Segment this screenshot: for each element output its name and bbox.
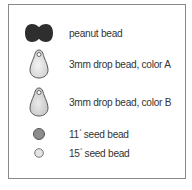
size-rest: seed bead bbox=[82, 147, 129, 159]
legend-label: 3mm drop bead, color B bbox=[69, 96, 171, 108]
legend-item-11-seed-bead: 11° seed bead bbox=[9, 127, 137, 141]
legend-label: 11° seed bead bbox=[69, 128, 129, 140]
legend-item-peanut-bead: peanut bead bbox=[9, 23, 130, 43]
legend-label: peanut bead bbox=[69, 27, 122, 39]
legend-item-15-seed-bead: 15° seed bead bbox=[9, 147, 138, 159]
seed-bead-icon bbox=[9, 127, 69, 141]
size-number: 11 bbox=[69, 128, 79, 140]
drop-bead-icon bbox=[9, 87, 69, 117]
peanut-bead-icon bbox=[9, 23, 69, 43]
seed-bead-icon bbox=[9, 147, 69, 159]
legend-label: 15° seed bead bbox=[69, 147, 129, 159]
legend-item-drop-bead-a: 3mm drop bead, color A bbox=[9, 49, 185, 79]
bead-legend: peanut bead 3mm drop bead, color A bbox=[8, 4, 186, 179]
size-number: 15 bbox=[69, 147, 80, 159]
size-rest: seed bead bbox=[81, 128, 128, 140]
legend-label: 3mm drop bead, color A bbox=[69, 58, 171, 70]
legend-item-drop-bead-b: 3mm drop bead, color B bbox=[9, 87, 185, 117]
drop-bead-icon bbox=[9, 49, 69, 79]
